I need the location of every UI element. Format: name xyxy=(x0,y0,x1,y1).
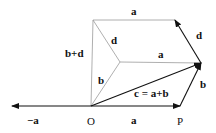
label-a-bottom: a xyxy=(131,114,137,126)
label-b-left: b xyxy=(98,74,104,86)
edge-b-plus-d xyxy=(91,20,93,106)
label-a-middle: a xyxy=(158,48,164,60)
vector-diagram: −a O a P c = a+b b b a a d d b+d xyxy=(0,0,216,133)
label-neg-a: −a xyxy=(27,114,39,126)
vector-c xyxy=(91,63,201,106)
label-point-p: P xyxy=(177,115,183,127)
edge-a-middle xyxy=(120,62,201,63)
label-d-left: d xyxy=(111,34,117,46)
label-d-right: d xyxy=(196,29,202,41)
edge-b-left xyxy=(91,62,120,106)
vector-d-right xyxy=(175,20,201,63)
label-b-plus-d: b+d xyxy=(65,47,84,59)
label-origin: O xyxy=(87,115,95,127)
label-a-top: a xyxy=(131,5,137,17)
label-b-right: b xyxy=(200,78,206,90)
label-c-equals-a-plus-b: c = a+b xyxy=(134,87,169,99)
